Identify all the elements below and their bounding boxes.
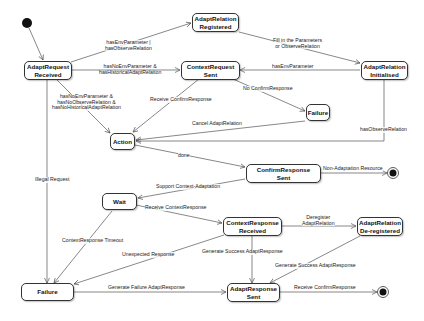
state-label: De-registered <box>360 227 400 234</box>
edge-label: done <box>178 153 190 159</box>
initial-state-dot <box>22 18 32 28</box>
edge-label: Receive ConfirmResponse <box>150 97 212 103</box>
edge-label: Generate Success AdaptResponse <box>275 263 356 269</box>
edge-label: hasEnvParameter |hasObserveRelation <box>105 40 152 51</box>
state-failure-lower: Failure <box>21 283 74 301</box>
edge-label: Generate Success AdaptResponse <box>202 249 283 255</box>
state-failure-upper: Failure <box>306 104 330 121</box>
state-label: ConfirmResponse <box>257 166 310 173</box>
state-adaptrelation-deregistered: AdaptRelationDe-registered <box>357 217 403 236</box>
edge-label: Receive ContextResponse <box>145 205 206 211</box>
state-contextresponse-received: ContextResponseReceived <box>223 217 282 236</box>
state-confirmresponse-sent: ConfirmResponseSent <box>246 164 321 183</box>
state-action: Action <box>110 133 135 150</box>
state-label: Received <box>34 71 61 78</box>
state-label: Failure <box>308 109 328 116</box>
state-wait: Wait <box>102 193 137 210</box>
state-label: AdaptRelation <box>195 15 237 22</box>
state-label: Initialised <box>370 71 399 78</box>
edge-label: hasObserveRelation <box>360 127 407 133</box>
state-label: Received <box>239 227 266 234</box>
edge-label: No ConfirmResponse <box>243 86 293 92</box>
state-label: ContextResponse <box>226 219 279 226</box>
edge-label: Receive ConfirmResponse <box>294 285 356 291</box>
state-adaptrequest-received: AdaptRequestReceived <box>24 61 72 80</box>
state-label: AdaptRelation <box>359 219 401 226</box>
edge-label: Non-Adaptation Resource <box>323 166 383 172</box>
edge-label: Cancel AdaptRelation <box>192 121 242 127</box>
state-label: AdaptResponse <box>230 285 277 292</box>
transition-arrows <box>0 0 424 321</box>
edge-label: Unexpected Response <box>122 252 175 258</box>
edge-label: hasNoEnvParameter &hasHistoricalAdaptRel… <box>99 64 161 75</box>
edge-label: hasNoEnvParameter &hasNoObserveRelation … <box>52 94 121 111</box>
state-label: AdaptRequest <box>27 63 69 70</box>
state-label: Wait <box>113 198 126 205</box>
state-label: Sent <box>204 71 217 78</box>
edge-label: Generate Failure AdaptResponse <box>108 285 185 291</box>
edge-label: Fill in the Parametersor ObserveRelation <box>273 38 322 49</box>
state-diagram: AdaptRequestReceived AdaptRelationRegist… <box>0 0 424 321</box>
state-adaptrelation-registered: AdaptRelationRegistered <box>192 13 239 32</box>
state-adaptresponse-sent: AdaptResponseSent <box>227 283 280 302</box>
edge-label: hasEnvParameter <box>272 64 314 70</box>
state-label: Action <box>113 138 132 145</box>
state-label: AdaptRelation <box>364 63 406 70</box>
state-label: Registered <box>200 23 232 30</box>
state-contextrequest-sent: ContextRequestSent <box>181 61 240 80</box>
edge-label: Support Context-Adaptation <box>156 184 220 190</box>
state-label: Failure <box>37 288 57 295</box>
edge-label: ContextResponse Timeout <box>62 238 123 244</box>
state-label: ContextRequest <box>187 63 234 70</box>
state-label: Sent <box>277 174 290 181</box>
edge-label: DeregisterAdaptRelation <box>302 215 335 226</box>
state-adaptrelation-initialised: AdaptRelationInitialised <box>361 61 408 80</box>
edge-label: Illegal Request <box>35 177 69 183</box>
state-label: Sent <box>247 293 260 300</box>
